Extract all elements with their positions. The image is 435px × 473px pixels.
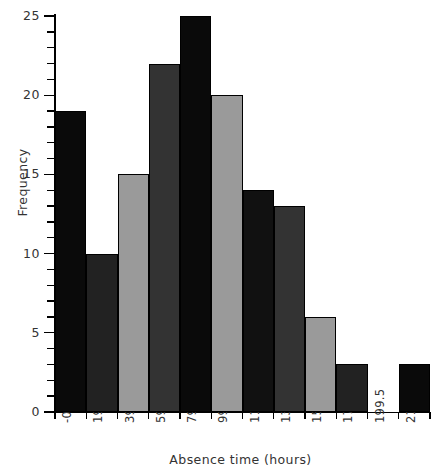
x-axis-tick bbox=[148, 412, 149, 419]
y-axis-minor-tick bbox=[47, 142, 55, 143]
y-axis-major-tick bbox=[44, 95, 55, 96]
y-axis-minor-tick bbox=[47, 269, 55, 270]
x-axis-tick bbox=[429, 412, 430, 419]
histogram-bar bbox=[336, 364, 367, 412]
y-axis-minor-tick bbox=[47, 300, 55, 301]
y-axis-major-tick bbox=[44, 332, 55, 333]
y-axis-minor-tick bbox=[47, 221, 55, 222]
y-axis-major-tick bbox=[44, 174, 55, 175]
histogram-bar bbox=[305, 317, 336, 412]
y-axis-minor-tick bbox=[47, 79, 55, 80]
histogram-figure: Frequency Absence time (hours) 051015202… bbox=[0, 0, 435, 473]
bars-container bbox=[55, 16, 430, 412]
y-axis-minor-tick bbox=[47, 63, 55, 64]
y-axis-minor-tick bbox=[47, 205, 55, 206]
y-axis-major-tick bbox=[44, 15, 55, 16]
x-axis-tick bbox=[273, 412, 274, 419]
y-axis-title: Frequency bbox=[15, 113, 30, 253]
histogram-bar bbox=[180, 16, 211, 412]
x-axis-tick bbox=[367, 412, 368, 419]
y-axis-minor-tick bbox=[47, 31, 55, 32]
histogram-bar bbox=[243, 190, 274, 412]
y-axis-minor-tick bbox=[47, 395, 55, 396]
y-axis-tick-label: 0 bbox=[0, 404, 40, 419]
histogram-bar bbox=[86, 254, 117, 412]
x-axis-tick bbox=[86, 412, 87, 419]
histogram-bar bbox=[274, 206, 305, 412]
y-axis-tick-label: 5 bbox=[0, 325, 40, 340]
x-axis-tick bbox=[179, 412, 180, 419]
y-axis-minor-tick bbox=[47, 158, 55, 159]
y-axis-minor-tick bbox=[47, 380, 55, 381]
x-axis-tick bbox=[398, 412, 399, 419]
y-axis-tick-label: 25 bbox=[0, 8, 40, 23]
x-axis-tick bbox=[211, 412, 212, 419]
x-axis-tick bbox=[117, 412, 118, 419]
histogram-bar bbox=[55, 111, 86, 412]
x-axis-tick bbox=[336, 412, 337, 419]
x-axis-tick bbox=[54, 412, 55, 419]
y-axis-minor-tick bbox=[47, 285, 55, 286]
y-axis-major-tick bbox=[44, 253, 55, 254]
y-axis-minor-tick bbox=[47, 110, 55, 111]
y-axis-minor-tick bbox=[47, 47, 55, 48]
y-axis-minor-tick bbox=[47, 190, 55, 191]
y-axis-minor-tick bbox=[47, 126, 55, 127]
x-axis-tick bbox=[304, 412, 305, 419]
y-axis-minor-tick bbox=[47, 364, 55, 365]
histogram-bar bbox=[149, 64, 180, 412]
histogram-bar bbox=[211, 95, 242, 412]
x-axis-title: Absence time (hours) bbox=[0, 452, 435, 467]
histogram-bar bbox=[118, 174, 149, 412]
y-axis-minor-tick bbox=[47, 316, 55, 317]
y-axis-tick-label: 20 bbox=[0, 87, 40, 102]
x-axis-tick bbox=[242, 412, 243, 419]
histogram-bar bbox=[399, 364, 430, 412]
y-axis-minor-tick bbox=[47, 348, 55, 349]
y-axis-tick-label: 10 bbox=[0, 246, 40, 261]
y-axis-tick-label: 15 bbox=[0, 166, 40, 181]
y-axis-minor-tick bbox=[47, 237, 55, 238]
